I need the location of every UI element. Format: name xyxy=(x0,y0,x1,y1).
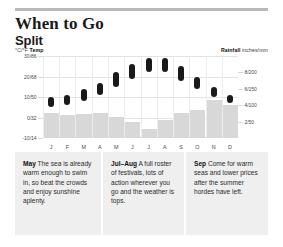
temperature-tick: 0/32 — xyxy=(27,115,43,120)
rainfall-bar xyxy=(223,105,238,138)
month-column xyxy=(108,56,124,138)
rainfall-legend-label: Rainfall xyxy=(221,47,241,53)
month-label: F xyxy=(66,144,69,150)
note-text: May The sea is already warm enough to sw… xyxy=(23,159,94,206)
rainfall-bar xyxy=(109,117,124,138)
when-to-go-panel: When to Go Split °C/°F Temp Rainfall inc… xyxy=(0,0,283,247)
rainfall-bar xyxy=(93,113,108,138)
rainfall-tick: — 4/100 xyxy=(238,103,257,108)
rainfall-bar xyxy=(142,129,157,138)
rainfall-bar xyxy=(44,113,59,138)
rainfall-tick: — 8/200 xyxy=(238,70,257,75)
month-label: J xyxy=(50,144,53,150)
month-column xyxy=(157,56,173,138)
temperature-tick: 30/86 — xyxy=(24,54,43,59)
month-label: S xyxy=(179,144,183,150)
note-card: May The sea is already warm enough to sw… xyxy=(15,152,101,235)
rainfall-bar xyxy=(125,122,140,138)
chart-plot-area xyxy=(43,56,238,138)
temperature-range-pill xyxy=(64,95,70,105)
month-column xyxy=(206,56,222,138)
temperature-tick: 10/50 — xyxy=(24,95,43,100)
temperature-range-pill xyxy=(81,89,87,101)
page-title: When to Go xyxy=(15,14,104,34)
month-column xyxy=(75,56,91,138)
rainfall-legend: Rainfall inches/mm xyxy=(221,47,268,53)
rainfall-legend-unit: inches/mm xyxy=(242,47,268,53)
rainfall-axis: — 8/200— 6/150— 4/100— 2/50 xyxy=(238,56,268,138)
month-label: J xyxy=(147,144,150,150)
month-label: N xyxy=(212,144,216,150)
temperature-range-pill xyxy=(146,58,152,72)
note-card: Jul–Aug A full roster of festivals, lots… xyxy=(101,152,184,235)
climate-chart: 30/86 —20/68 —10/50 —0/32 —-10/14 — — 8/… xyxy=(15,56,268,148)
column-divider xyxy=(141,56,142,138)
rainfall-tick: — 6/150 xyxy=(238,86,257,91)
rainfall-bar xyxy=(190,110,205,138)
temperature-range-pill xyxy=(227,95,233,103)
month-column xyxy=(189,56,205,138)
temperature-range-pill xyxy=(211,87,217,97)
month-column xyxy=(43,56,59,138)
temperature-range-pill xyxy=(97,83,103,95)
note-card: Sep Come for warm seas and lower prices … xyxy=(184,152,268,235)
month-label: O xyxy=(195,144,199,150)
seasonal-notes: May The sea is already warm enough to sw… xyxy=(15,152,268,235)
temperature-axis: 30/86 —20/68 —10/50 —0/32 —-10/14 — xyxy=(15,56,43,138)
rainfall-bar xyxy=(60,115,75,138)
note-month: May xyxy=(23,160,36,167)
note-month: Jul–Aug xyxy=(111,160,137,167)
temperature-range-pill xyxy=(48,97,54,107)
top-divider-rule xyxy=(15,8,268,11)
note-month: Sep xyxy=(194,160,206,167)
month-column xyxy=(141,56,157,138)
temperature-range-pill xyxy=(178,66,184,80)
month-label: A xyxy=(163,144,167,150)
destination-subtitle: Split xyxy=(15,33,43,48)
temperature-range-pill xyxy=(113,72,119,86)
temperature-tick: -10/14 — xyxy=(22,136,43,141)
month-column xyxy=(124,56,140,138)
month-column xyxy=(92,56,108,138)
rainfall-bar xyxy=(158,120,173,138)
note-text: Sep Come for warm seas and lower prices … xyxy=(194,159,261,196)
month-label: M xyxy=(114,144,119,150)
month-label: A xyxy=(98,144,102,150)
month-column xyxy=(59,56,75,138)
temperature-range-pill xyxy=(129,64,135,78)
rainfall-bar xyxy=(207,100,222,138)
temperature-range-pill xyxy=(194,77,200,89)
temperature-tick: 20/68 — xyxy=(24,74,43,79)
note-text: Jul–Aug A full roster of festivals, lots… xyxy=(111,159,177,206)
month-column xyxy=(222,56,238,138)
temperature-range-pill xyxy=(162,58,168,72)
month-axis-labels: JFMAMJJASOND xyxy=(43,140,238,150)
rainfall-bar xyxy=(174,113,189,138)
month-label: D xyxy=(228,144,232,150)
month-column xyxy=(173,56,189,138)
rainfall-tick: — 2/50 xyxy=(238,119,254,124)
month-label: J xyxy=(131,144,134,150)
rainfall-bar xyxy=(76,114,91,138)
month-label: M xyxy=(81,144,86,150)
